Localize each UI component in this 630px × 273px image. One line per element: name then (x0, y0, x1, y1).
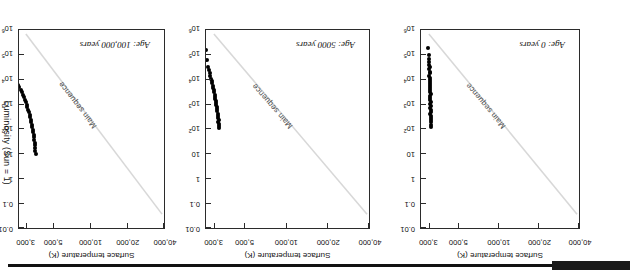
luminosity-tick (206, 203, 211, 204)
plot-area-age-100000: Main sequence Age: 100,000 years (18, 29, 165, 229)
temperature-tick-label: 3,000 (419, 238, 438, 247)
plot-area-age-0: Main sequence Age: 0 years (420, 29, 580, 229)
temperature-tick-label: 10,000 (79, 238, 102, 247)
luminosity-tick-label: 103 (404, 99, 415, 110)
temperature-axis-title: Surface temperature (K) (205, 251, 370, 260)
luminosity-tick-label: 106 (2, 24, 13, 35)
luminosity-tick (206, 30, 211, 31)
luminosity-tick-label: 104 (189, 74, 200, 85)
luminosity-axis-title: Luminosity (Sun = 1) (2, 101, 12, 185)
data-point (205, 58, 209, 62)
temperature-tick (164, 223, 165, 228)
luminosity-tick (19, 153, 24, 154)
data-point (427, 46, 431, 50)
luminosity-tick-label: 10 (407, 150, 415, 159)
luminosity-tick (206, 104, 211, 105)
luminosity-tick-label: 103 (189, 99, 200, 110)
temperature-axis-title: Surface temperature (K) (420, 251, 580, 260)
data-point (207, 68, 211, 72)
temperature-tick (579, 223, 580, 228)
luminosity-tick (421, 30, 426, 31)
luminosity-tick (421, 178, 426, 179)
luminosity-tick-label: 0.1 (190, 200, 200, 209)
temperature-tick (26, 223, 27, 228)
luminosity-tick-label: 104 (2, 74, 13, 85)
luminosity-tick (206, 79, 211, 80)
luminosity-tick (19, 228, 24, 229)
luminosity-tick (421, 228, 426, 229)
luminosity-tick (421, 104, 426, 105)
temperature-tick (327, 223, 328, 228)
temperature-tick-label: 10,000 (487, 238, 510, 247)
temperature-tick (53, 223, 54, 228)
luminosity-tick-label: 1 (196, 175, 200, 184)
temperature-tick (214, 223, 215, 228)
luminosity-tick (206, 178, 211, 179)
luminosity-tick (19, 203, 24, 204)
luminosity-tick (421, 54, 426, 55)
luminosity-tick (421, 203, 426, 204)
panel-age-5000: Surface temperature (K) Main sequence Ag… (205, 29, 370, 229)
temperature-tick-label: 40,000 (359, 238, 382, 247)
luminosity-tick-label: 0.01 (0, 225, 13, 234)
luminosity-tick (421, 129, 426, 130)
luminosity-tick-label: 10 (192, 150, 200, 159)
luminosity-tick-label: 102 (189, 124, 200, 135)
temperature-tick (90, 223, 91, 228)
luminosity-tick (19, 30, 24, 31)
luminosity-tick-label: 105 (404, 49, 415, 60)
luminosity-tick (19, 104, 24, 105)
temperature-tick (245, 223, 246, 228)
luminosity-tick (421, 153, 426, 154)
luminosity-tick-label: 106 (404, 24, 415, 35)
main-sequence-label: Main sequence (57, 80, 99, 130)
temperature-tick (286, 223, 287, 228)
temperature-tick (127, 223, 128, 228)
temperature-tick-label: 40,000 (569, 238, 592, 247)
temperature-tick-label: 40,000 (154, 238, 177, 247)
luminosity-tick (19, 178, 24, 179)
temperature-tick-label: 5,000 (44, 238, 63, 247)
temperature-tick-label: 20,000 (116, 238, 139, 247)
luminosity-tick-label: 105 (2, 49, 13, 60)
panel-age-0: Surface temperature (K) Main sequence Ag… (420, 29, 580, 229)
temperature-tick (429, 223, 430, 228)
age-label: Age: 0 years (520, 40, 565, 50)
age-label: Age: 5000 years (296, 40, 355, 50)
luminosity-tick (421, 79, 426, 80)
temperature-tick (369, 223, 370, 228)
temperature-tick-label: 3,000 (16, 238, 35, 247)
scan-edge-bar-thick (552, 261, 630, 270)
main-sequence-label: Main sequence (464, 81, 508, 130)
luminosity-tick (206, 129, 211, 130)
luminosity-tick-label: 102 (404, 124, 415, 135)
temperature-tick-label: 5,000 (235, 238, 254, 247)
luminosity-tick (206, 228, 211, 229)
luminosity-tick-label: 104 (404, 74, 415, 85)
main-sequence-label: Main sequence (251, 82, 295, 131)
data-point (206, 65, 210, 69)
luminosity-tick-label: 0.1 (405, 200, 415, 209)
luminosity-tick-label: 0.1 (3, 200, 13, 209)
scan-edge-bar (8, 264, 622, 267)
plot-area-age-5000: Main sequence Age: 5000 years (205, 29, 370, 229)
temperature-tick-label: 10,000 (275, 238, 298, 247)
age-label: Age: 100,000 years (80, 40, 150, 50)
temperature-tick (538, 223, 539, 228)
luminosity-tick-label: 105 (189, 49, 200, 60)
luminosity-tick-label: 106 (189, 24, 200, 35)
data-point (427, 57, 431, 61)
figure-canvas: Surface temperature (K) Main sequence Ag… (0, 0, 630, 273)
panel-age-100000: Surface temperature (K) Main sequence Ag… (18, 29, 165, 229)
temperature-tick (458, 223, 459, 228)
luminosity-tick (19, 79, 24, 80)
temperature-tick (498, 223, 499, 228)
temperature-tick-label: 20,000 (528, 238, 551, 247)
temperature-axis-title: Surface temperature (K) (18, 251, 165, 260)
luminosity-tick (19, 54, 24, 55)
luminosity-tick (206, 153, 211, 154)
luminosity-tick-label: 1 (411, 175, 415, 184)
data-point (205, 48, 208, 52)
temperature-tick-label: 3,000 (204, 238, 223, 247)
temperature-tick-label: 20,000 (317, 238, 340, 247)
